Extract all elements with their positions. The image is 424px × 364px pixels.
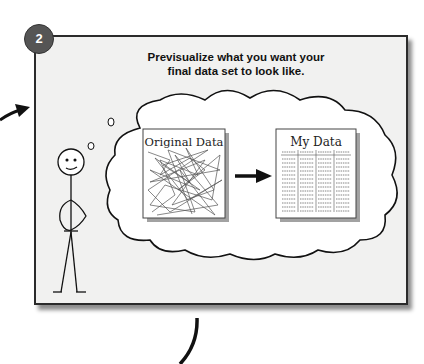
instruction-text: Previsualize what you want your final da… [100,50,372,78]
step-number-badge: 2 [24,24,54,54]
my-data-label: My Data [290,135,342,149]
thought-bubble-medium [108,118,114,126]
outgoing-curve-line [180,318,197,364]
instruction-line-1: Previsualize what you want your [100,50,372,64]
instruction-line-2: final data set to look like. [100,64,372,78]
stick-figure [53,149,86,292]
original-data-label: Original Data [145,135,224,149]
my-data-document: My Data [276,129,360,222]
thought-bubble-small [88,143,94,150]
original-data-document: Original Data [143,129,229,222]
incoming-arrow-icon [0,104,30,120]
